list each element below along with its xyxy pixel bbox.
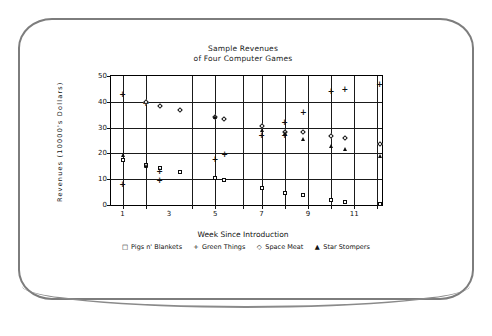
gridline-vertical [285,76,286,205]
chart-title: Sample Revenues of Four Computer Games [118,44,368,63]
chart-legend: □Pigs n' Blankets+Green Things◇Space Mea… [60,243,432,251]
legend-marker-icon: + [193,244,199,251]
data-point-plus [300,110,307,115]
data-point-square [301,193,305,197]
data-point-square [158,166,162,170]
data-point-square [343,200,347,204]
x-axis-label: Week Since Introduction [118,230,368,239]
legend-marker-icon: ▲ [314,244,320,251]
scatter-chart: Sample Revenues of Four Computer Games R… [0,0,492,336]
gridline-vertical [308,76,309,205]
y-tick-mark [107,179,111,180]
legend-label: Pigs n' Blankets [131,243,182,251]
x-tick-mark [285,205,286,209]
x-tick-label: 3 [167,210,171,218]
data-point-triangle [343,147,347,151]
x-tick-mark [262,205,263,209]
gridline-vertical [354,76,355,205]
legend-label: Star Stompers [323,243,370,251]
gridline-vertical [243,76,244,205]
legend-marker-icon: □ [122,244,128,251]
data-point-diamond [222,116,228,122]
y-tick-mark [107,205,111,206]
legend-label: Green Things [202,243,245,251]
data-point-square [178,170,182,174]
y-tick-label: 40 [98,98,107,106]
legend-marker-icon: ◇ [256,244,262,251]
gridline-vertical [331,76,332,205]
y-tick-mark [107,76,111,77]
x-tick-mark [377,205,378,209]
x-tick-label: 11 [350,210,359,218]
y-tick-label: 10 [98,175,107,183]
x-tick-label: 5 [213,210,217,218]
legend-entry[interactable]: +Green Things [193,243,245,251]
x-tick-mark [308,205,309,209]
data-point-plus [156,169,163,174]
gridline-vertical [377,76,378,205]
legend-label: Space Meat [265,243,303,251]
data-point-diamond [178,107,184,113]
gridline-vertical [146,76,147,205]
x-tick-label: 9 [306,210,310,218]
gridline-vertical [262,76,263,205]
data-point-triangle [301,137,305,141]
gridline-vertical [123,76,124,205]
gridline-horizontal [111,153,382,154]
gridline-vertical [215,76,216,205]
gridline-horizontal [111,179,382,180]
y-tick-mark [107,128,111,129]
data-point-diamond [157,103,163,109]
y-tick-label: 20 [98,149,107,157]
data-point-diamond [300,129,306,135]
x-tick-mark [243,205,244,209]
legend-entry[interactable]: ◇Space Meat [256,243,303,251]
plot-area: 010203040501357911 [110,75,383,206]
y-tick-label: 50 [98,72,107,80]
data-point-diamond [342,136,348,142]
y-tick-label: 0 [103,201,107,209]
chart-title-line1: Sample Revenues [208,44,278,53]
y-tick-mark [107,153,111,154]
legend-entry[interactable]: ▲Star Stompers [314,243,370,251]
legend-entry[interactable]: □Pigs n' Blankets [122,243,182,251]
y-tick-label: 30 [98,124,107,132]
x-tick-label: 1 [120,210,124,218]
data-point-plus [342,87,349,92]
x-tick-mark [146,205,147,209]
chart-title-line2: of Four Computer Games [118,54,368,64]
x-tick-label: 7 [259,210,263,218]
x-tick-mark [331,205,332,209]
gridline-horizontal [111,128,382,129]
x-tick-mark [123,205,124,209]
y-tick-mark [107,102,111,103]
y-axis-label: Revenues (10000's Dollars) [52,78,68,206]
x-tick-mark [215,205,216,209]
x-tick-mark [354,205,355,209]
x-tick-mark [192,205,193,209]
gridline-vertical [192,76,193,205]
gridline-horizontal [111,102,382,103]
